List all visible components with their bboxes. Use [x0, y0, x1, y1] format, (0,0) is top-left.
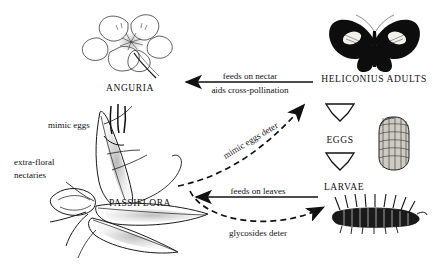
life-cycle-diagram: ANGURIA HELICONIUS ADULTS feeds on necta…	[0, 0, 441, 264]
anguria-label: ANGURIA	[106, 83, 154, 93]
edge-aids-cross-pollination-label: aids cross-pollination	[211, 85, 289, 95]
extra-floral-nectaries-annotation-line2: nectaries	[14, 170, 46, 180]
diagram-canvas: ANGURIA HELICONIUS ADULTS feeds on necta…	[0, 0, 441, 264]
edge-feeds-on-nectar-label: feeds on nectar	[223, 71, 277, 81]
eggs-label: EGGS	[326, 135, 353, 145]
passiflora-label: PASSIFLORA	[109, 198, 171, 208]
extra-floral-nectaries-annotation-line1: extra-floral	[14, 157, 55, 167]
larvae-label: LARVAE	[324, 182, 364, 192]
butterfly-egg-icon	[379, 117, 409, 170]
edge-feeds-on-leaves-label: feeds on leaves	[231, 186, 286, 196]
edge-glycosides-deter-label: glycosides deter	[229, 228, 287, 238]
mimic-eggs-annotation: mimic eggs	[48, 120, 90, 130]
heliconius-adults-label: HELICONIUS ADULTS	[321, 74, 427, 84]
